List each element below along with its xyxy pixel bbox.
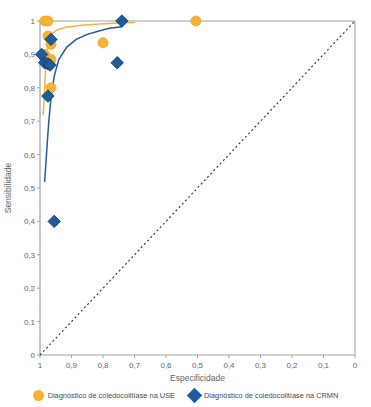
y-tick-label: 0,4: [24, 217, 36, 226]
y-tick-label: 0,9: [24, 50, 36, 59]
legend-item-crmn: Diagnóstico de coledocolitíase na CRMN: [189, 390, 338, 401]
y-axis-title: Sensibilidade: [3, 162, 13, 213]
legend-label-use: Diagnóstico de coledocolitíase na USE: [48, 391, 175, 400]
legend-item-use: Diagnóstico de coledocolitíase na USE: [33, 390, 175, 401]
x-tick-label: 0,9: [66, 361, 78, 370]
y-tick-label: 0,7: [24, 117, 36, 126]
plot-area: 00,10,20,30,40,50,60,70,80,9110,90,80,70…: [0, 0, 371, 407]
diamond-marker-icon: [187, 387, 203, 403]
x-tick-label: 0,2: [286, 361, 298, 370]
circle-marker-icon: [33, 390, 44, 401]
x-tick-label: 0,8: [97, 361, 109, 370]
roc-curve-crmn: [45, 27, 122, 182]
x-tick-label: 0,6: [160, 361, 172, 370]
x-tick-label: 0,7: [129, 361, 141, 370]
data-point-crmn: [116, 15, 128, 27]
chart-legend: Diagnóstico de coledocolitíase na USE Di…: [0, 386, 371, 404]
x-tick-label: 0,1: [318, 361, 330, 370]
data-point-crmn: [48, 215, 60, 227]
roc-chart: 00,10,20,30,40,50,60,70,80,9110,90,80,70…: [0, 0, 371, 407]
data-point-use: [43, 16, 53, 26]
x-tick-label: 1: [38, 361, 43, 370]
y-tick-label: 0: [31, 351, 36, 360]
y-tick-label: 0,8: [24, 84, 36, 93]
y-tick-label: 0,1: [24, 318, 36, 327]
y-tick-label: 0,6: [24, 151, 36, 160]
data-point-use: [191, 16, 201, 26]
data-point-use: [98, 38, 108, 48]
x-tick-label: 0,5: [192, 361, 204, 370]
x-tick-label: 0,3: [255, 361, 267, 370]
legend-label-crmn: Diagnóstico de coledocolitíase na CRMN: [204, 391, 338, 400]
x-tick-label: 0,4: [223, 361, 235, 370]
x-axis-title: Especificidade: [170, 373, 225, 383]
reference-line: [40, 21, 355, 355]
y-tick-label: 0,5: [24, 184, 36, 193]
x-tick-label: 0: [353, 361, 358, 370]
y-tick-label: 0,2: [24, 284, 36, 293]
y-tick-label: 1: [31, 17, 36, 26]
y-tick-label: 0,3: [24, 251, 36, 260]
data-point-crmn: [111, 57, 123, 70]
